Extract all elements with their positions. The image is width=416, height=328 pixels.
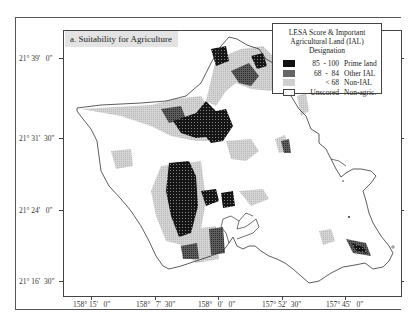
lat-label-1: 21° 39' 0": [19, 54, 53, 63]
legend-range: 68 - 84: [301, 69, 339, 78]
lon-label-4: 157° 52' 30": [262, 300, 301, 309]
other-ial-swatch-icon: [283, 70, 295, 77]
lon-label-2: 158° 7' 30": [136, 300, 175, 309]
legend-range: < 68: [301, 78, 339, 87]
lat-label-4: 21° 16' 30": [19, 277, 55, 286]
kaneohe-bay: [331, 159, 346, 166]
legend-item-unscored: Unscored Non-agric.: [273, 88, 381, 98]
legend-label: Prime land: [344, 59, 377, 68]
lat-label-3: 21° 24' 0": [19, 206, 53, 215]
legend-title-2: Agricultural Land (IAL) Designation: [273, 37, 381, 55]
lon-tick: [91, 297, 92, 300]
legend-item-prime: 85 - 100 Prime land: [273, 59, 381, 69]
legend-item-other-ial: 68 - 84 Other IAL: [273, 69, 381, 79]
islet: [348, 216, 350, 218]
lon-tick: [218, 297, 219, 300]
islet: [392, 246, 394, 248]
islet: [342, 180, 344, 182]
prime-swatch-icon: [283, 60, 295, 67]
non-ial-swatch-icon: [283, 79, 295, 86]
unscored-swatch-icon: [283, 89, 295, 96]
lon-label-5: 157° 45' 0": [326, 300, 363, 309]
legend-label: Other IAL: [344, 69, 375, 78]
legend-item-non-ial: < 68 Non-IAL: [273, 78, 381, 88]
lon-tick: [282, 297, 283, 300]
map-title: a. Suitability for Agriculture: [65, 31, 178, 47]
legend-range: Unscored: [301, 88, 339, 97]
pearl-harbor: [221, 213, 259, 243]
legend: LESA Score & Important Agricultural Land…: [272, 23, 382, 94]
lat-label-2: 21° 31' 30": [19, 134, 55, 143]
legend-label: Non-agric.: [344, 88, 376, 97]
lon-label-1: 158° 15' 0": [73, 300, 110, 309]
lon-tick: [155, 297, 156, 300]
lon-tick: [345, 297, 346, 300]
legend-rows: 85 - 100 Prime land 68 - 84 Other IAL < …: [273, 59, 381, 97]
lon-label-3: 158° 0' 0": [198, 300, 235, 309]
legend-title-1: LESA Score & Important: [273, 28, 381, 37]
legend-range: 85 - 100: [301, 59, 339, 68]
legend-label: Non-IAL: [344, 78, 372, 87]
